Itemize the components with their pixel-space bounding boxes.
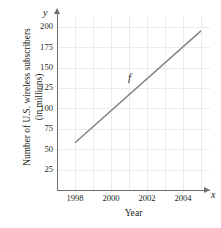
x-axis-tick-labels: 1998200020022004 (0, 0, 221, 228)
x-axis-title: Year (57, 207, 210, 218)
x-tick-label: 2002 (138, 194, 155, 203)
x-tick-label: 2000 (102, 194, 119, 203)
x-tick-label: 1998 (66, 194, 83, 203)
x-tick-label: 2004 (174, 194, 191, 203)
chart-figure: Number of U.S. wireless subscribers (in … (0, 0, 221, 228)
function-label: f (128, 71, 131, 83)
